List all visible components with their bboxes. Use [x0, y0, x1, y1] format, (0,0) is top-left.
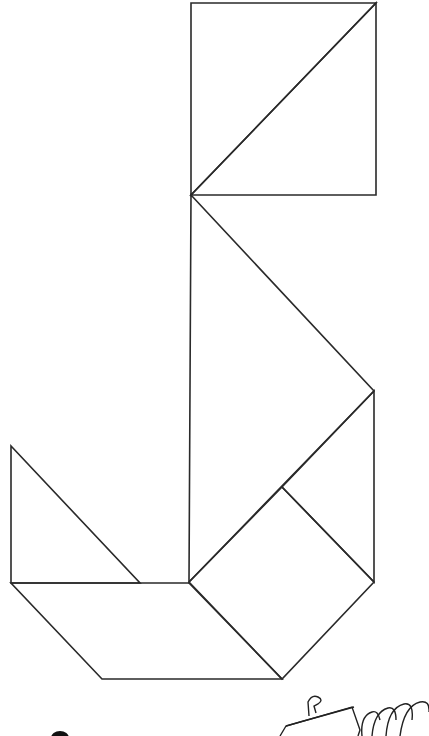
large-triangle-middle — [189, 195, 374, 582]
parallelogram — [11, 583, 282, 679]
square — [189, 487, 374, 679]
decorative-dot-icon — [51, 731, 69, 736]
tangram-canvas — [0, 0, 429, 736]
tangram-letter-j — [11, 3, 376, 679]
decorative-jack-in-box-icon — [280, 696, 429, 736]
medium-triangle-right — [282, 391, 374, 582]
large-triangle-top-right — [191, 3, 376, 195]
small-triangle-left — [11, 446, 140, 583]
